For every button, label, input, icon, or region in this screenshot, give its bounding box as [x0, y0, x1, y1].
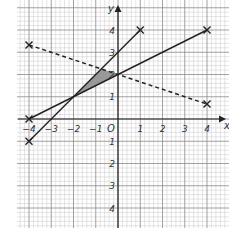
y-tick-label: 1: [109, 137, 115, 147]
x-tick-label: −4: [22, 124, 36, 134]
y-tick-label: 1: [109, 92, 115, 102]
y-axis-label: y: [107, 3, 115, 14]
y-tick-label: 3: [109, 48, 115, 58]
coordinate-graph: −4−3−2−1123443211234 x y O: [0, 0, 229, 228]
y-tick-label: 3: [109, 181, 115, 191]
x-tick-label: −3: [45, 124, 59, 134]
x-tick-label: −1: [89, 124, 102, 134]
y-axis-arrow-icon: [115, 5, 122, 12]
x-tick-label: 1: [137, 124, 143, 134]
x-tick-label: 2: [160, 124, 166, 134]
x-axis-label: x: [223, 120, 229, 131]
origin-label: O: [107, 123, 115, 134]
x-tick-label: −2: [67, 124, 81, 134]
y-tick-label: 2: [109, 159, 115, 169]
y-tick-label: 2: [109, 70, 115, 80]
y-tick-label: 4: [109, 204, 115, 214]
y-tick-label: 4: [109, 26, 115, 36]
x-tick-label: 3: [182, 124, 188, 134]
x-tick-label: 4: [204, 124, 210, 134]
